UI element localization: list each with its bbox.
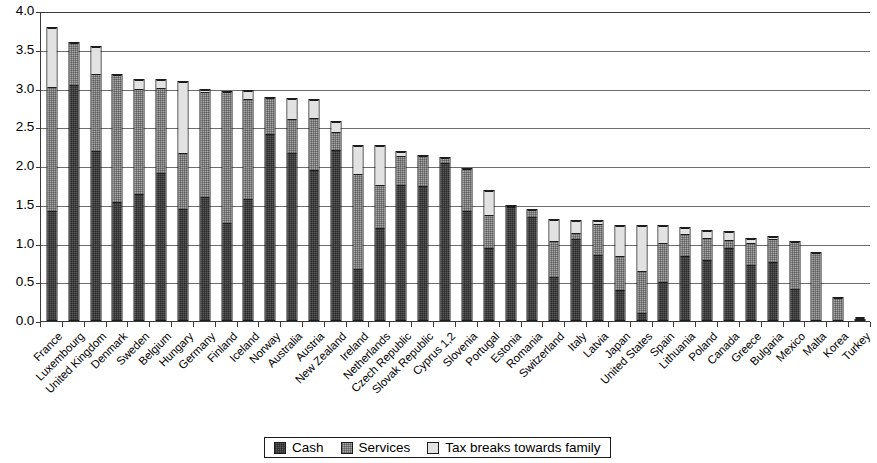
stacked-bar[interactable] bbox=[680, 227, 691, 321]
x-axis-tick-mark bbox=[783, 322, 784, 327]
bar-segment-cash bbox=[484, 248, 493, 320]
stacked-bar[interactable] bbox=[855, 319, 866, 321]
stacked-bar[interactable] bbox=[330, 121, 341, 321]
bar-group[interactable] bbox=[805, 12, 827, 321]
bar-group[interactable] bbox=[522, 12, 544, 321]
bar-segment-cash bbox=[550, 277, 559, 320]
bar-segment-services bbox=[157, 88, 166, 173]
bar-group[interactable] bbox=[696, 12, 718, 321]
bar-group[interactable] bbox=[194, 12, 216, 321]
bar-group[interactable] bbox=[784, 12, 806, 321]
stacked-bar[interactable] bbox=[243, 90, 254, 321]
bar-group[interactable] bbox=[827, 12, 849, 321]
stacked-bar[interactable] bbox=[592, 220, 603, 321]
bar-group[interactable] bbox=[259, 12, 281, 321]
x-axis-tick-mark bbox=[171, 322, 172, 327]
stacked-bar[interactable] bbox=[177, 81, 188, 321]
stacked-bar[interactable] bbox=[221, 91, 232, 321]
x-axis-tick-mark bbox=[673, 322, 674, 327]
bar-group[interactable] bbox=[543, 12, 565, 321]
bar-segment-cash bbox=[353, 269, 362, 320]
legend-label: Cash bbox=[292, 440, 324, 455]
bar-group[interactable] bbox=[718, 12, 740, 321]
stacked-bar[interactable] bbox=[265, 97, 276, 321]
legend-item[interactable]: Cash bbox=[274, 440, 324, 455]
bar-group[interactable] bbox=[740, 12, 762, 321]
stacked-bar[interactable] bbox=[309, 99, 320, 321]
stacked-bar[interactable] bbox=[549, 219, 560, 321]
bar-segment-cash bbox=[441, 163, 450, 320]
bar-group[interactable] bbox=[674, 12, 696, 321]
stacked-bar[interactable] bbox=[90, 46, 101, 321]
stacked-bar[interactable] bbox=[461, 168, 472, 321]
stacked-bar[interactable] bbox=[614, 225, 625, 321]
stacked-bar[interactable] bbox=[46, 27, 57, 321]
stacked-bar[interactable] bbox=[636, 225, 647, 321]
bar-segment-services bbox=[419, 156, 428, 186]
bar-segment-cash bbox=[310, 170, 319, 320]
bar-segment-cash bbox=[69, 85, 78, 320]
bar-group[interactable] bbox=[565, 12, 587, 321]
stacked-bar[interactable] bbox=[505, 205, 516, 321]
bar-group[interactable] bbox=[587, 12, 609, 321]
bar-group[interactable] bbox=[281, 12, 303, 321]
stacked-bar[interactable] bbox=[789, 241, 800, 321]
stacked-bar[interactable] bbox=[374, 145, 385, 321]
bar-group[interactable] bbox=[347, 12, 369, 321]
bar-segment-services bbox=[113, 75, 122, 203]
stacked-bar[interactable] bbox=[483, 190, 494, 321]
bar-group[interactable] bbox=[107, 12, 129, 321]
bar-group[interactable] bbox=[456, 12, 478, 321]
stacked-bar[interactable] bbox=[724, 231, 735, 321]
bar-group[interactable] bbox=[631, 12, 653, 321]
bar-group[interactable] bbox=[63, 12, 85, 321]
bar-segment-services bbox=[615, 256, 624, 290]
stacked-bar[interactable] bbox=[352, 145, 363, 321]
bar-group[interactable] bbox=[172, 12, 194, 321]
bar-group[interactable] bbox=[128, 12, 150, 321]
bar-group[interactable] bbox=[325, 12, 347, 321]
stacked-bar[interactable] bbox=[571, 220, 582, 321]
bar-group[interactable] bbox=[762, 12, 784, 321]
x-axis-tick-mark bbox=[586, 322, 587, 327]
stacked-bar[interactable] bbox=[440, 157, 451, 321]
stacked-bar[interactable] bbox=[68, 42, 79, 321]
bar-segment-services bbox=[484, 215, 493, 247]
bar-group[interactable] bbox=[500, 12, 522, 321]
bar-group[interactable] bbox=[849, 12, 871, 321]
bar-group[interactable] bbox=[412, 12, 434, 321]
stacked-bar[interactable] bbox=[833, 297, 844, 321]
legend-item[interactable]: Services bbox=[341, 440, 411, 455]
bar-group[interactable] bbox=[41, 12, 63, 321]
stacked-bar[interactable] bbox=[811, 252, 822, 321]
stacked-bar[interactable] bbox=[745, 238, 756, 321]
bar-segment-services bbox=[812, 253, 821, 320]
bar-group[interactable] bbox=[150, 12, 172, 321]
bar-segment-services bbox=[768, 239, 777, 262]
bar-group[interactable] bbox=[609, 12, 631, 321]
bar-group[interactable] bbox=[238, 12, 260, 321]
stacked-bar[interactable] bbox=[287, 98, 298, 321]
stacked-bar[interactable] bbox=[702, 230, 713, 321]
bar-group[interactable] bbox=[303, 12, 325, 321]
legend-item[interactable]: Tax breaks towards family bbox=[427, 440, 600, 455]
stacked-bar[interactable] bbox=[527, 209, 538, 321]
bar-group[interactable] bbox=[369, 12, 391, 321]
stacked-bar[interactable] bbox=[396, 151, 407, 321]
stacked-bar[interactable] bbox=[767, 236, 778, 321]
stacked-bar[interactable] bbox=[199, 89, 210, 321]
bar-group[interactable] bbox=[653, 12, 675, 321]
stacked-bar[interactable] bbox=[658, 225, 669, 321]
bar-group[interactable] bbox=[434, 12, 456, 321]
stacked-bar[interactable] bbox=[112, 74, 123, 321]
stacked-bar[interactable] bbox=[134, 79, 145, 321]
bar-group[interactable] bbox=[85, 12, 107, 321]
x-axis-tick-mark bbox=[870, 322, 871, 327]
stacked-bar[interactable] bbox=[418, 155, 429, 321]
x-axis-tick-mark bbox=[258, 322, 259, 327]
bar-group[interactable] bbox=[478, 12, 500, 321]
bar-segment-services bbox=[397, 156, 406, 185]
bar-group[interactable] bbox=[216, 12, 238, 321]
stacked-bar[interactable] bbox=[156, 79, 167, 321]
bar-group[interactable] bbox=[390, 12, 412, 321]
